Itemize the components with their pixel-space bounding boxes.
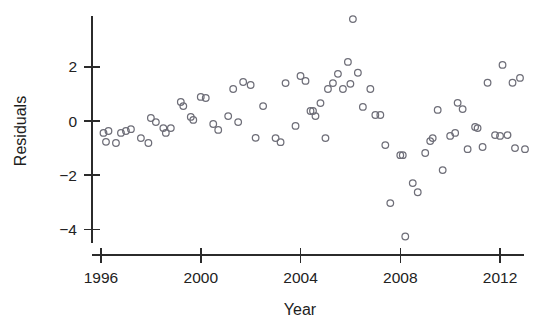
data-point bbox=[512, 145, 519, 152]
y-tick-label: −2 bbox=[59, 167, 77, 184]
data-point bbox=[153, 119, 160, 126]
data-point bbox=[282, 80, 289, 87]
data-point bbox=[325, 86, 332, 93]
data-point bbox=[387, 200, 394, 207]
data-point bbox=[484, 79, 491, 86]
data-point bbox=[454, 100, 461, 107]
data-point bbox=[235, 119, 242, 126]
data-point bbox=[210, 121, 217, 128]
data-point bbox=[225, 113, 232, 120]
data-point bbox=[402, 233, 409, 240]
data-point bbox=[240, 79, 247, 86]
data-point bbox=[452, 130, 459, 137]
data-point bbox=[230, 86, 237, 93]
data-point bbox=[138, 135, 145, 142]
data-point bbox=[522, 146, 529, 153]
x-tick-label: 2000 bbox=[184, 269, 219, 286]
data-point bbox=[434, 107, 441, 114]
figure-container: 20−2−4 19962000200420082012 Residuals Ye… bbox=[0, 0, 556, 331]
y-tick-group: 20−2−4 bbox=[59, 58, 100, 238]
data-point bbox=[292, 123, 299, 130]
data-point bbox=[277, 139, 284, 146]
data-point bbox=[145, 140, 152, 147]
data-point bbox=[215, 127, 222, 134]
data-point bbox=[260, 103, 267, 110]
data-point bbox=[340, 86, 347, 93]
x-tick-label: 2008 bbox=[383, 269, 417, 286]
data-point bbox=[464, 146, 471, 153]
data-point bbox=[509, 79, 516, 86]
data-point bbox=[322, 135, 329, 142]
data-point bbox=[355, 69, 362, 76]
y-tick-label: 0 bbox=[68, 113, 77, 130]
data-point bbox=[302, 78, 309, 85]
data-point bbox=[479, 144, 486, 151]
data-point bbox=[247, 82, 254, 89]
x-tick-label: 2004 bbox=[283, 269, 318, 286]
y-axis-title: Residuals bbox=[12, 96, 29, 166]
x-axis: 19962000200420082012 bbox=[84, 248, 524, 286]
data-point bbox=[347, 81, 354, 88]
y-axis: 20−2−4 bbox=[59, 16, 100, 243]
data-point bbox=[113, 140, 120, 147]
data-point bbox=[360, 104, 367, 111]
data-point bbox=[345, 59, 352, 66]
data-point bbox=[330, 80, 337, 87]
data-point bbox=[414, 189, 421, 196]
data-point bbox=[499, 62, 506, 69]
data-point bbox=[517, 75, 524, 82]
data-point bbox=[422, 150, 429, 157]
data-point bbox=[317, 100, 324, 107]
x-tick-label: 2012 bbox=[483, 269, 517, 286]
data-point bbox=[367, 86, 374, 93]
data-point bbox=[504, 132, 511, 139]
data-point bbox=[439, 167, 446, 174]
data-point bbox=[335, 71, 342, 78]
y-tick-label: −4 bbox=[59, 221, 77, 238]
data-point bbox=[382, 142, 389, 149]
scatter-plot: 20−2−4 19962000200420082012 Residuals Ye… bbox=[0, 0, 556, 331]
data-point bbox=[459, 106, 466, 113]
y-tick-label: 2 bbox=[68, 58, 77, 75]
x-axis-title: Year bbox=[284, 301, 317, 318]
data-point bbox=[350, 16, 357, 23]
data-point bbox=[252, 135, 259, 142]
data-point bbox=[409, 180, 416, 187]
x-tick-group: 19962000200420082012 bbox=[84, 248, 518, 286]
data-point bbox=[168, 125, 175, 132]
x-tick-label: 1996 bbox=[84, 269, 118, 286]
data-point bbox=[103, 139, 110, 146]
plot-points bbox=[100, 16, 528, 240]
